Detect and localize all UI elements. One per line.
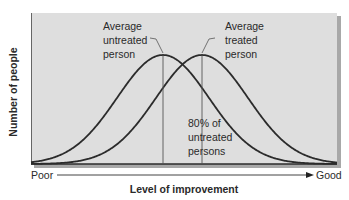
chart: Average untreated person Average treated… (0, 0, 349, 200)
arrow-head-icon (306, 172, 314, 178)
poor-label: Poor (31, 169, 54, 181)
plot-panel (31, 13, 337, 164)
y-axis-label: Number of people (7, 47, 19, 136)
good-label: Good (316, 169, 342, 181)
x-axis-label: Level of improvement (130, 183, 239, 195)
